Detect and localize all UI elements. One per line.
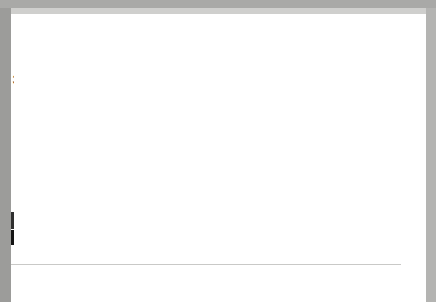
- page-frame-left: [0, 0, 11, 302]
- chart-baseline-rule: [8, 264, 401, 265]
- page-frame-top: [0, 0, 436, 8]
- page-frame-right: [426, 0, 436, 302]
- frame-inner-shadow: [11, 8, 426, 14]
- figure-card: [14, 11, 423, 302]
- figure-container: FIGURE 9.1 Percentage of Adults Aged 65 …: [0, 0, 436, 302]
